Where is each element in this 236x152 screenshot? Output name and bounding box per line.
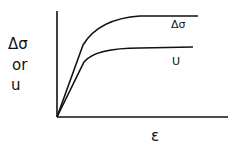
y-axis-label-or: or [12,58,27,73]
y-axis-label-u: u [11,78,21,93]
curve-label-delta-sigma: Δσ [171,19,186,30]
x-axis-label-epsilon: ε [151,129,159,144]
y-axis-label-delta-sigma: Δσ [8,37,28,52]
curve-label-u: U [172,56,180,67]
diagram-canvas [0,0,236,152]
